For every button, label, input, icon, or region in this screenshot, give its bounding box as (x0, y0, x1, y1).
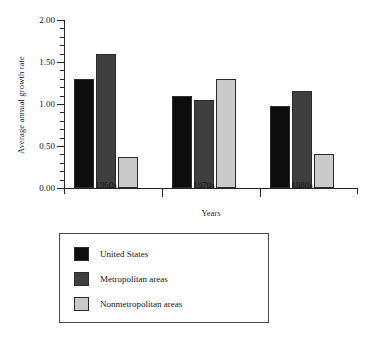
x-axis-title: Years (64, 208, 358, 218)
y-tick-label: 1.00 (39, 99, 55, 109)
y-tick-major (57, 104, 64, 105)
y-tick-label: 0.50 (39, 141, 55, 151)
legend-swatch (74, 297, 89, 311)
bar (194, 100, 214, 188)
y-tick-minor (60, 70, 64, 71)
y-axis-line (64, 20, 65, 189)
legend-swatch (74, 272, 89, 286)
x-axis-group-label: 1960s (95, 180, 117, 190)
y-tick-major (57, 20, 64, 21)
y-tick-minor (60, 28, 64, 29)
y-tick-label: 0.00 (39, 183, 55, 193)
y-tick-minor (60, 163, 64, 164)
y-tick-minor (60, 79, 64, 80)
bar (172, 96, 192, 188)
y-tick-major (57, 62, 64, 63)
legend-label: United States (100, 249, 148, 259)
y-tick-minor (60, 87, 64, 88)
y-tick-label: 1.50 (39, 57, 55, 67)
x-axis-end-tick (64, 188, 65, 194)
y-tick-minor (60, 45, 64, 46)
y-tick-minor (60, 121, 64, 122)
x-axis-group-separator (162, 188, 163, 197)
x-axis-group-label: 1970s (193, 180, 215, 190)
legend-item: United States (74, 247, 148, 261)
y-tick-minor (60, 171, 64, 172)
y-axis-title: Average annual growth rate (16, 20, 26, 190)
bar (74, 79, 94, 188)
legend-label: Nonmetropolitan areas (100, 299, 182, 309)
legend-item: Nonmetropolitan areas (74, 297, 182, 311)
bar (270, 106, 290, 188)
plot-area: 0.000.501.001.502.00 (64, 20, 358, 188)
y-tick-minor (60, 180, 64, 181)
bar (314, 154, 334, 188)
y-tick-label: 2.00 (39, 15, 55, 25)
legend-swatch (74, 247, 89, 261)
x-axis-end-tick (357, 188, 358, 194)
x-axis-group-separator (260, 188, 261, 197)
bar (292, 91, 312, 188)
x-axis-group-label: 1980s (291, 180, 313, 190)
chart-figure: Average annual growth rate 0.000.501.001… (0, 0, 375, 342)
y-tick-minor (60, 129, 64, 130)
y-tick-major (57, 146, 64, 147)
y-tick-minor (60, 138, 64, 139)
y-tick-minor (60, 154, 64, 155)
y-tick-minor (60, 96, 64, 97)
legend-item: Metropolitan areas (74, 272, 168, 286)
y-tick-minor (60, 112, 64, 113)
bar (96, 54, 116, 188)
chart-legend: United StatesMetropolitan areasNonmetrop… (59, 233, 269, 323)
legend-label: Metropolitan areas (100, 274, 168, 284)
y-tick-major (57, 188, 64, 189)
bar (216, 79, 236, 188)
bar (118, 157, 138, 188)
y-tick-minor (60, 37, 64, 38)
y-tick-minor (60, 54, 64, 55)
